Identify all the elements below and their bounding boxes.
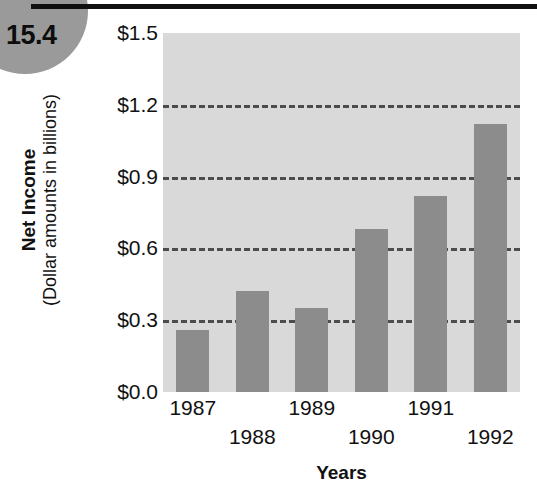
header-rule: [31, 4, 537, 9]
x-tick-label-1988: 1988: [229, 425, 276, 449]
x-tick-label-1989: 1989: [288, 396, 335, 420]
bar-1992: [474, 124, 507, 392]
plot-area: [163, 33, 520, 392]
x-tick-label-1990: 1990: [348, 425, 395, 449]
x-tick-label-1992: 1992: [467, 425, 514, 449]
bar-series: [163, 33, 520, 392]
y-tick-label: $0.6: [86, 236, 158, 260]
bar-1990: [355, 229, 388, 392]
x-axis-ticks: 198719881989199019911992: [163, 392, 520, 452]
bar-1988: [236, 291, 269, 392]
y-tick-label: $0.3: [86, 308, 158, 332]
bar-1987: [176, 330, 209, 392]
y-tick-label: $0.0: [86, 380, 158, 404]
x-tick-label-1987: 1987: [169, 396, 216, 420]
y-axis-title-main: Net Income: [18, 149, 40, 251]
y-axis-ticks: $1.5$1.2$0.9$0.6$0.3$0.0: [80, 33, 158, 392]
bar-1991: [414, 196, 447, 392]
y-tick-label: $0.9: [86, 165, 158, 189]
x-tick-label-1991: 1991: [407, 396, 454, 420]
y-axis-title: Net Income (Dollar amounts in billions): [9, 75, 69, 325]
bar-1989: [295, 308, 328, 392]
y-axis-title-sub: (Dollar amounts in billions): [40, 94, 61, 306]
y-tick-label: $1.2: [86, 93, 158, 117]
y-tick-label: $1.5: [86, 21, 158, 45]
x-axis-title: Years: [163, 462, 520, 484]
chart-figure: 15.4 $1.5$1.2$0.9$0.6$0.3$0.0 Net Income…: [0, 0, 537, 488]
chapter-badge-number: 15.4: [6, 20, 57, 51]
